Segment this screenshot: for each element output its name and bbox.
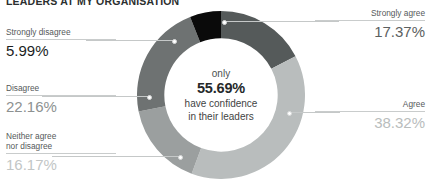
callout-strongly-agree: Strongly agree 17.37% (315, 8, 425, 41)
callout-rule-strongly-agree (315, 20, 425, 21)
callout-rule-agree (315, 111, 425, 112)
callout-value-disagree: 22.16% (6, 97, 116, 116)
leader-dot-strongly-agree (222, 20, 227, 25)
callout-value-strongly-disagree: 5.99% (6, 41, 116, 60)
page-title: LEADERS AT MY ORGANISATION (6, 0, 179, 7)
donut-slice-strongly-agree (221, 11, 296, 69)
callout-strongly-disagree: Strongly disagree 5.99% (6, 27, 116, 60)
callout-value-strongly-agree: 17.37% (315, 22, 425, 41)
donut-chart (137, 11, 305, 179)
callout-label-disagree: Disagree (6, 83, 116, 93)
callout-rule-disagree (6, 95, 116, 96)
donut-chart-figure: LEADERS AT MY ORGANISATION only 55.69% h… (0, 0, 429, 188)
callout-label-strongly-disagree: Strongly disagree (6, 27, 116, 37)
leader-dot-strongly-disagree (172, 39, 177, 44)
leader-dot-neither (178, 155, 183, 160)
callout-rule-neither (6, 153, 116, 154)
callout-label-neither-line1: Neither agree (6, 131, 116, 141)
callout-label-agree: Agree (315, 99, 425, 109)
callout-label-neither-line2: nor disagree (6, 141, 116, 151)
donut-slice-agree (192, 56, 305, 179)
callout-value-agree: 38.32% (315, 113, 425, 132)
callout-label-strongly-agree: Strongly agree (315, 8, 425, 18)
callout-neither: Neither agree nor disagree 16.17% (6, 131, 116, 174)
callout-agree: Agree 38.32% (315, 99, 425, 132)
leader-dot-disagree (147, 95, 152, 100)
callout-value-neither: 16.17% (6, 155, 116, 174)
donut-svg (137, 11, 305, 179)
callout-rule-strongly-disagree (6, 39, 116, 40)
callout-disagree: Disagree 22.16% (6, 83, 116, 116)
donut-slice-neither-agree-nor-disagree (139, 106, 202, 174)
leader-dot-agree (287, 111, 292, 116)
